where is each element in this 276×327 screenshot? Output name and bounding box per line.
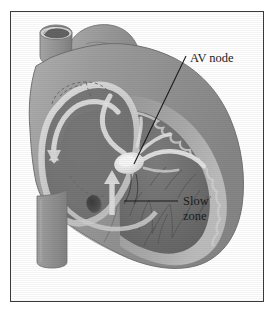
slow-zone-label-line1: Slow [183, 194, 209, 208]
slow-zone-label-line2: zone [183, 209, 207, 223]
av-node-label: AV node [190, 51, 234, 65]
figure-root: AV node Slow zone [0, 0, 276, 327]
heart-illustration: AV node Slow zone [0, 0, 276, 327]
